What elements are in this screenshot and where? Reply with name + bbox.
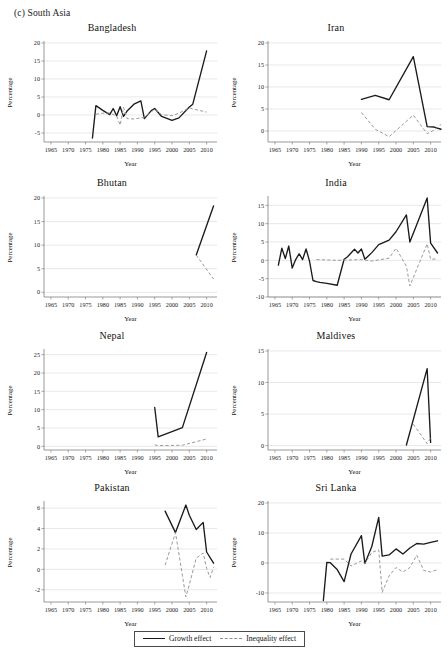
svg-text:2000: 2000	[166, 454, 178, 461]
svg-text:1975: 1975	[79, 301, 91, 308]
svg-text:1965: 1965	[45, 454, 57, 461]
svg-text:5: 5	[37, 265, 40, 272]
svg-text:1975: 1975	[79, 454, 91, 461]
svg-text:1965: 1965	[45, 301, 57, 308]
svg-text:15: 15	[34, 218, 40, 225]
svg-text:15: 15	[258, 61, 264, 68]
svg-text:1970: 1970	[62, 146, 74, 153]
growth-line-icon	[143, 638, 165, 639]
panel-title: Pakistan	[0, 482, 224, 493]
svg-text:-10: -10	[256, 589, 264, 596]
panel-title: Iran	[224, 22, 448, 33]
svg-text:1990: 1990	[131, 454, 143, 461]
svg-text:1985: 1985	[338, 301, 350, 308]
svg-text:2000: 2000	[166, 146, 178, 153]
svg-text:25: 25	[34, 351, 40, 358]
svg-text:1990: 1990	[355, 301, 367, 308]
svg-text:Percentage: Percentage	[230, 386, 237, 416]
svg-text:1970: 1970	[62, 301, 74, 308]
svg-text:1990: 1990	[355, 606, 367, 613]
svg-text:2010: 2010	[200, 301, 212, 308]
svg-text:1965: 1965	[269, 146, 281, 153]
svg-text:20: 20	[258, 39, 264, 46]
svg-text:1975: 1975	[79, 606, 91, 613]
svg-text:15: 15	[34, 388, 40, 395]
svg-text:1995: 1995	[373, 454, 385, 461]
svg-text:0: 0	[37, 443, 40, 450]
svg-text:1985: 1985	[338, 146, 350, 153]
svg-text:1995: 1995	[149, 454, 161, 461]
svg-text:10: 10	[258, 529, 264, 536]
legend: Growth effect Inequality effect	[134, 631, 305, 647]
svg-text:1980: 1980	[321, 454, 333, 461]
plot-nepal: 0510152025196519701975198019851990199520…	[0, 342, 224, 482]
svg-text:1995: 1995	[373, 606, 385, 613]
svg-text:5: 5	[37, 93, 40, 100]
section-label: (c) South Asia	[14, 8, 70, 18]
svg-text:20: 20	[258, 499, 264, 506]
svg-text:Percentage: Percentage	[6, 78, 13, 108]
svg-text:2005: 2005	[183, 146, 195, 153]
svg-text:Percentage: Percentage	[6, 538, 13, 568]
svg-text:Year: Year	[348, 620, 361, 627]
svg-text:2000: 2000	[166, 301, 178, 308]
panel-title: Maldives	[224, 330, 448, 341]
svg-text:0: 0	[261, 127, 264, 134]
svg-text:15: 15	[258, 347, 264, 354]
svg-text:1980: 1980	[97, 146, 109, 153]
svg-text:2005: 2005	[407, 301, 419, 308]
svg-text:-5: -5	[259, 275, 264, 282]
svg-text:2000: 2000	[390, 301, 402, 308]
svg-text:0: 0	[261, 442, 264, 449]
svg-text:1975: 1975	[303, 454, 315, 461]
svg-text:1980: 1980	[321, 606, 333, 613]
svg-text:1985: 1985	[114, 454, 126, 461]
svg-text:20: 20	[34, 39, 40, 46]
legend-item-growth: Growth effect	[143, 634, 211, 643]
svg-text:0: 0	[37, 111, 40, 118]
svg-text:2000: 2000	[390, 146, 402, 153]
svg-text:1995: 1995	[149, 606, 161, 613]
panel-iran: Iran 05101520196519701975198019851990199…	[224, 22, 448, 174]
svg-text:20: 20	[34, 194, 40, 201]
svg-text:10: 10	[34, 75, 40, 82]
svg-text:5: 5	[37, 424, 40, 431]
plot-india: -10-505101519651970197519801985199019952…	[224, 189, 448, 329]
svg-text:5: 5	[261, 238, 264, 245]
panel-bangladesh: Bangladesh -5051015201965197019751980198…	[0, 22, 224, 174]
svg-text:Year: Year	[348, 315, 361, 322]
panel-sri-lanka: Sri Lanka -10010201965197019751980198519…	[224, 482, 448, 634]
panel-bhutan: Bhutan 051015201965197019751980198519901…	[0, 177, 224, 329]
svg-text:2005: 2005	[407, 606, 419, 613]
svg-text:4: 4	[37, 525, 40, 532]
svg-text:2005: 2005	[183, 301, 195, 308]
svg-text:-2: -2	[35, 586, 40, 593]
svg-text:10: 10	[258, 220, 264, 227]
svg-text:1995: 1995	[149, 146, 161, 153]
inequality-line-icon	[220, 638, 242, 639]
svg-text:2000: 2000	[390, 454, 402, 461]
svg-text:Year: Year	[124, 315, 137, 322]
svg-text:2010: 2010	[424, 606, 436, 613]
svg-text:2010: 2010	[424, 454, 436, 461]
svg-text:0: 0	[37, 566, 40, 573]
svg-text:Percentage: Percentage	[230, 233, 237, 263]
svg-text:Percentage: Percentage	[230, 538, 237, 568]
svg-text:1965: 1965	[45, 146, 57, 153]
svg-text:Year: Year	[348, 160, 361, 167]
svg-text:2005: 2005	[183, 454, 195, 461]
svg-text:1975: 1975	[303, 146, 315, 153]
svg-text:1980: 1980	[97, 301, 109, 308]
panel-title: Nepal	[0, 330, 224, 341]
svg-text:5: 5	[261, 105, 264, 112]
panel-pakistan: Pakistan -202461965197019751980198519901…	[0, 482, 224, 634]
plot-maldives: 0510151965197019751980198519901995200020…	[224, 342, 448, 482]
svg-text:1990: 1990	[131, 301, 143, 308]
svg-text:2010: 2010	[424, 301, 436, 308]
svg-text:1995: 1995	[373, 301, 385, 308]
svg-text:1980: 1980	[321, 146, 333, 153]
svg-text:1965: 1965	[269, 454, 281, 461]
svg-text:1980: 1980	[97, 454, 109, 461]
svg-text:15: 15	[258, 202, 264, 209]
svg-text:1985: 1985	[114, 606, 126, 613]
